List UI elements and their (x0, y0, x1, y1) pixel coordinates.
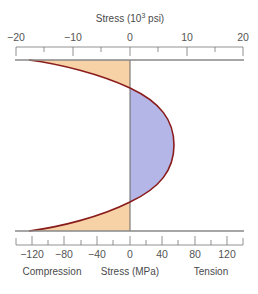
top-tick-label: 0 (127, 31, 133, 43)
top-tick-label: −10 (64, 31, 82, 43)
top-tick-label: 20 (237, 31, 249, 43)
tension-label: Tension (194, 266, 228, 277)
tension-region (130, 88, 174, 202)
top-axis (16, 47, 243, 56)
bottom-tick-label: 0 (127, 248, 133, 260)
bottom-tick-label: 120 (218, 248, 236, 260)
bottom-axis (16, 236, 243, 245)
bottom-tick-label: −80 (55, 248, 73, 260)
bottom-tick-label: 40 (156, 248, 168, 260)
top-axis-title: Stress (103 psi) (96, 12, 164, 24)
bottom-tick-label: 80 (189, 248, 201, 260)
bottom-tick-label: −120 (20, 248, 44, 260)
bottom-tick-label: −40 (88, 248, 106, 260)
compression-region-bottom (29, 202, 130, 231)
compression-region-top (29, 60, 130, 88)
bottom-axis-title: Stress (MPa) (101, 266, 159, 277)
compression-label: Compression (23, 266, 82, 277)
top-tick-label: −20 (7, 31, 25, 43)
top-tick-label: 10 (181, 31, 193, 43)
